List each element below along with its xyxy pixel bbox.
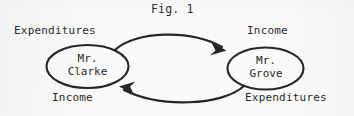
node-label-clarke: Mr. Clarke bbox=[47, 53, 128, 78]
figure-container: Fig. 1 Expenditures Income Income Expend… bbox=[0, 0, 354, 116]
flow-label-top-left: Expenditures bbox=[14, 24, 96, 37]
node-label-grove: Mr. Grove bbox=[228, 55, 304, 80]
figure-title: Fig. 1 bbox=[151, 3, 194, 16]
flow-label-bottom-left: Income bbox=[52, 91, 93, 104]
arrow-clarke-to-grove-path bbox=[115, 35, 222, 50]
arrow-grove-to-clarke-path bbox=[124, 86, 244, 102]
flow-label-top-right: Income bbox=[247, 24, 288, 37]
flow-label-bottom-right: Expenditures bbox=[245, 91, 327, 104]
